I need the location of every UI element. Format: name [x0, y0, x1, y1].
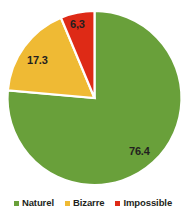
chart-legend: Naturel Bizarre Impossible [0, 193, 186, 213]
legend-label-naturel: Naturel [22, 198, 54, 208]
legend-swatch-icon [14, 201, 19, 206]
data-label-naturel: 76.4 [129, 146, 150, 157]
legend-label-bizarre: Bizarre [73, 198, 105, 208]
legend-item-impossible[interactable]: Impossible [115, 198, 172, 208]
pie-plot-area: 6,3 17.3 76.4 [0, 0, 186, 192]
legend-label-impossible: Impossible [123, 198, 172, 208]
data-label-impossible: 6,3 [70, 19, 85, 30]
legend-swatch-icon [65, 201, 70, 206]
legend-swatch-icon [115, 201, 120, 206]
data-label-bizarre: 17.3 [27, 55, 48, 66]
pie-svg [0, 0, 186, 192]
legend-item-naturel[interactable]: Naturel [14, 198, 54, 208]
legend-item-bizarre[interactable]: Bizarre [65, 198, 105, 208]
pie-chart: 6,3 17.3 76.4 Naturel Bizarre Impossible [0, 0, 186, 216]
